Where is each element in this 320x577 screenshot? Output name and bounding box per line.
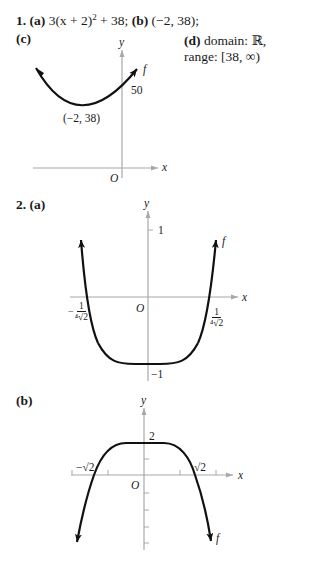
graph2b-f-label: f [216, 532, 219, 544]
graph2b-tick-2-label: 2 [149, 430, 155, 442]
graph2b-left-root-label: −√2 [76, 461, 95, 473]
graph2b-right-root-label: √2 [194, 461, 206, 473]
graph2b-x-label: x [238, 469, 243, 481]
graph2b-origin-label: O [131, 479, 139, 491]
graph2b-y-label: y [141, 394, 146, 406]
